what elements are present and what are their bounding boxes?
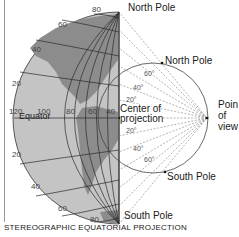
angle-tick-20n: 20° <box>126 96 137 103</box>
lat-tick-20s: 20 <box>12 151 21 159</box>
angle-tick-60n: 60° <box>144 70 155 77</box>
lat-tick-40s: 40 <box>31 183 40 191</box>
point-of-view-label-line2: of <box>218 111 226 121</box>
globe-north-pole-label: North Pole <box>128 3 175 13</box>
lon-tick-60: 60 <box>88 108 97 116</box>
projection-north-pole-label: North Pole <box>165 56 212 66</box>
lon-tick-120: 120 <box>9 108 22 116</box>
lat-tick-80n: 80 <box>92 6 101 14</box>
stereographic-projection-diagram: North Pole South Pole Equator 80 60 40 2… <box>0 0 239 237</box>
projection-south-pole-label: South Pole <box>167 172 216 182</box>
angle-tick-40n: 40° <box>133 84 144 91</box>
globe-south-pole-label: South Pole <box>124 211 173 221</box>
lon-tick-80: 80 <box>66 108 75 116</box>
angle-tick-40s: 40° <box>133 145 144 152</box>
lat-tick-20n: 20 <box>12 80 21 88</box>
point-of-view-label-line1: Poin <box>218 100 238 110</box>
diagram-caption: STEREOGRAPHIC EQUATORIAL PROJECTION <box>4 223 187 232</box>
lon-tick-40: 40 <box>106 108 115 116</box>
lat-tick-40n: 40 <box>32 46 41 54</box>
angle-tick-60s: 60° <box>144 156 155 163</box>
lat-tick-60s: 60 <box>58 205 67 213</box>
lat-tick-60n: 60 <box>58 21 67 29</box>
lon-tick-100: 100 <box>37 108 50 116</box>
center-projection-label-line2: projection <box>120 114 163 124</box>
angle-tick-20s: 20° <box>126 127 137 134</box>
point-of-view-label-line3: view <box>218 122 238 132</box>
